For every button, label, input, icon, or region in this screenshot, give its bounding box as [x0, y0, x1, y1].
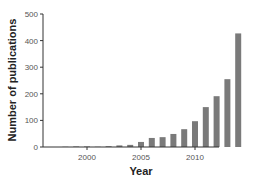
bar-2008: [170, 134, 176, 147]
y-axis-label: Number of publications: [6, 19, 18, 142]
bars: [62, 33, 241, 147]
x-axis-label: Year: [129, 165, 153, 177]
bar-2013: [224, 79, 230, 147]
y-tick-label: 200: [25, 90, 39, 99]
bar-2012: [214, 96, 220, 147]
y-tick-label: 300: [25, 63, 39, 72]
bar-2010: [192, 121, 198, 147]
y-tick-label: 100: [25, 116, 39, 125]
bar-2014: [235, 33, 241, 147]
bar-chart: 0100200300400500200020052010 Number of p…: [0, 0, 257, 184]
x-tick-label: 2005: [132, 153, 150, 162]
y-tick-label: 500: [25, 10, 39, 19]
bar-2011: [203, 107, 209, 147]
bar-2006: [149, 138, 155, 147]
x-tick-label: 2000: [78, 153, 96, 162]
y-tick-label: 0: [34, 143, 39, 152]
axes: 0100200300400500200020052010: [25, 10, 219, 162]
bar-2007: [160, 137, 166, 147]
bar-2005: [138, 142, 144, 147]
y-tick-label: 400: [25, 37, 39, 46]
chart-canvas: 0100200300400500200020052010 Number of p…: [0, 0, 257, 184]
bar-2009: [181, 129, 187, 147]
x-tick-label: 2010: [186, 153, 204, 162]
